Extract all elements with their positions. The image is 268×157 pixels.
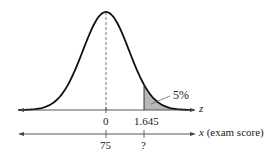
z-axis-left-arrow bbox=[18, 108, 24, 112]
x-axis-var: x bbox=[199, 126, 204, 138]
tail-area-label: 5% bbox=[173, 88, 189, 103]
x-axis-label: x (exam score) bbox=[199, 126, 264, 138]
x-axis-right-arrow bbox=[190, 132, 196, 136]
x-tick-label-0: 75 bbox=[100, 139, 111, 151]
x-axis-desc: (exam score) bbox=[207, 126, 264, 138]
z-tick-label-0: 0 bbox=[103, 115, 109, 127]
x-tick-label-1: ? bbox=[141, 139, 146, 151]
z-tick-label-1: 1.645 bbox=[134, 115, 159, 127]
normal-curve bbox=[18, 12, 194, 110]
z-axis-label: z bbox=[199, 102, 203, 114]
z-axis-right-arrow bbox=[190, 108, 196, 112]
x-axis-left-arrow bbox=[18, 132, 24, 136]
